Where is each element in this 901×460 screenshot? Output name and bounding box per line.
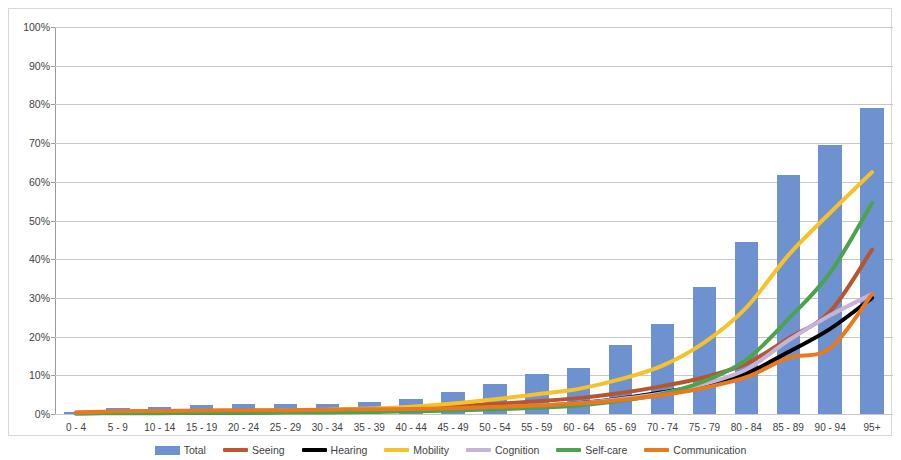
line-series-group bbox=[55, 27, 893, 414]
legend-item-cognition[interactable]: Cognition bbox=[466, 444, 539, 456]
x-axis-tick-label: 60 - 64 bbox=[563, 422, 594, 433]
x-axis-tick-label: 25 - 29 bbox=[270, 422, 301, 433]
x-axis-tick-label: 85 - 89 bbox=[773, 422, 804, 433]
x-axis-tick-label: 0 - 4 bbox=[66, 422, 86, 433]
x-axis-labels: 0 - 45 - 910 - 1415 - 1920 - 2425 - 2930… bbox=[0, 422, 901, 438]
legend-label: Cognition bbox=[495, 444, 539, 456]
legend-swatch-icon bbox=[155, 446, 180, 455]
x-axis-tick-label: 90 - 94 bbox=[815, 422, 846, 433]
legend-swatch-icon bbox=[384, 448, 409, 452]
x-axis-tick-label: 45 - 49 bbox=[437, 422, 468, 433]
x-axis-tick-label: 40 - 44 bbox=[396, 422, 427, 433]
y-axis-tick-label: 80% bbox=[6, 98, 50, 110]
chart-legend: TotalSeeingHearingMobilityCognitionSelf-… bbox=[0, 441, 901, 459]
x-axis-tick-label: 35 - 39 bbox=[354, 422, 385, 433]
plot-area bbox=[55, 27, 893, 414]
legend-swatch-icon bbox=[644, 448, 669, 452]
y-axis-tick-label: 10% bbox=[6, 369, 50, 381]
y-axis-tick-label: 40% bbox=[6, 253, 50, 265]
line-series-self-care bbox=[76, 203, 872, 414]
y-axis-tick-label: 70% bbox=[6, 137, 50, 149]
legend-swatch-icon bbox=[556, 448, 581, 452]
legend-label: Mobility bbox=[413, 444, 449, 456]
x-axis-tick-label: 70 - 74 bbox=[647, 422, 678, 433]
legend-item-self-care[interactable]: Self-care bbox=[556, 444, 627, 456]
x-axis-tick-label: 50 - 54 bbox=[479, 422, 510, 433]
x-axis-tick-label: 15 - 19 bbox=[186, 422, 217, 433]
y-axis-labels: 0%10%20%30%40%50%60%70%80%90%100% bbox=[0, 0, 50, 460]
x-axis-tick-label: 10 - 14 bbox=[144, 422, 175, 433]
legend-label: Self-care bbox=[585, 444, 627, 456]
x-axis-tick-label: 20 - 24 bbox=[228, 422, 259, 433]
x-axis-tick-label: 80 - 84 bbox=[731, 422, 762, 433]
legend-swatch-icon bbox=[223, 448, 248, 452]
y-axis-tick-label: 50% bbox=[6, 215, 50, 227]
y-axis-tick-label: 20% bbox=[6, 331, 50, 343]
legend-swatch-icon bbox=[302, 448, 327, 452]
legend-item-hearing[interactable]: Hearing bbox=[302, 444, 368, 456]
y-axis-tick-label: 0% bbox=[6, 408, 50, 420]
legend-item-mobility[interactable]: Mobility bbox=[384, 444, 449, 456]
x-axis-tick-label: 30 - 34 bbox=[312, 422, 343, 433]
x-axis-tick-label: 5 - 9 bbox=[108, 422, 128, 433]
legend-item-communication[interactable]: Communication bbox=[644, 444, 746, 456]
legend-swatch-icon bbox=[466, 448, 491, 452]
chart-container: 0%10%20%30%40%50%60%70%80%90%100% 0 - 45… bbox=[0, 0, 901, 460]
legend-item-seeing[interactable]: Seeing bbox=[223, 444, 285, 456]
x-axis-tick-label: 75 - 79 bbox=[689, 422, 720, 433]
line-series-mobility bbox=[76, 172, 872, 413]
x-axis-tick-label: 95+ bbox=[864, 422, 881, 433]
legend-label: Seeing bbox=[252, 444, 285, 456]
y-axis-tick-label: 100% bbox=[6, 21, 50, 33]
y-axis-tick-label: 30% bbox=[6, 292, 50, 304]
legend-label: Communication bbox=[673, 444, 746, 456]
y-axis-tick-label: 90% bbox=[6, 60, 50, 72]
legend-label: Total bbox=[184, 444, 206, 456]
x-axis-tick-label: 55 - 59 bbox=[521, 422, 552, 433]
legend-label: Hearing bbox=[331, 444, 368, 456]
y-axis-tick-label: 60% bbox=[6, 176, 50, 188]
line-series-seeing bbox=[76, 250, 872, 413]
legend-item-total[interactable]: Total bbox=[155, 444, 206, 456]
x-axis-tick-label: 65 - 69 bbox=[605, 422, 636, 433]
